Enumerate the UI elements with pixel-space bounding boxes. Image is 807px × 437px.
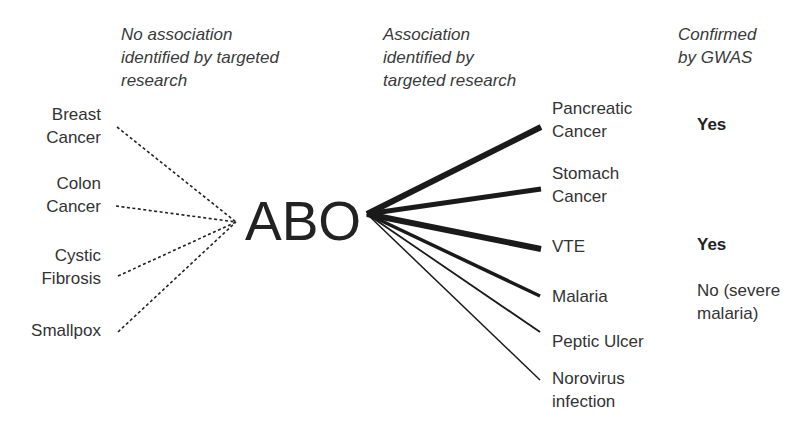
header-line: targeted research	[383, 69, 516, 92]
no-association-item-cystic-fibrosis: Cystic Fibrosis	[41, 244, 101, 290]
item-label-line: Peptic Ulcer	[552, 330, 644, 353]
gwas-status-line: malaria)	[697, 302, 780, 325]
header-line: identified by targeted	[121, 46, 279, 69]
header-line: research	[121, 69, 279, 92]
center-node-abo: ABO	[245, 194, 361, 249]
item-label-line: Breast	[46, 103, 101, 126]
header-association: Association identified by targeted resea…	[383, 23, 516, 92]
item-label-line: Smallpox	[31, 319, 101, 342]
item-label-line: Cancer	[552, 185, 619, 208]
no-association-item-colon-cancer: Colon Cancer	[46, 172, 101, 218]
edge-cystic-fibrosis	[118, 222, 236, 276]
edge-norovirus	[367, 214, 540, 380]
header-line: by GWAS	[678, 46, 756, 69]
gwas-status-malaria: No (severe malaria)	[697, 279, 780, 325]
association-item-malaria: Malaria	[552, 285, 608, 308]
association-item-peptic-ulcer: Peptic Ulcer	[552, 330, 644, 353]
edge-malaria	[367, 214, 540, 296]
header-confirmed-gwas: Confirmed by GWAS	[678, 23, 756, 69]
item-label-line: infection	[552, 390, 625, 413]
association-item-stomach-cancer: Stomach Cancer	[552, 162, 619, 208]
item-label-line: Cancer	[46, 195, 101, 218]
item-label-line: Colon	[46, 172, 101, 195]
gwas-status-line: No (severe	[697, 279, 780, 302]
gwas-status-vte: Yes	[697, 233, 726, 256]
header-line: Confirmed	[678, 23, 756, 46]
header-line: Association	[383, 23, 516, 46]
item-label-line: Cancer	[46, 126, 101, 149]
header-line: identified by	[383, 46, 516, 69]
edge-colon-cancer	[116, 206, 236, 222]
item-label-line: Stomach	[552, 162, 619, 185]
item-label-line: VTE	[552, 235, 585, 258]
association-item-pancreatic-cancer: Pancreatic Cancer	[552, 97, 632, 143]
item-label-line: Malaria	[552, 285, 608, 308]
association-item-norovirus-infection: Norovirus infection	[552, 367, 625, 413]
item-label-line: Cancer	[552, 120, 632, 143]
header-no-association: No association identified by targeted re…	[121, 23, 279, 92]
item-label-line: Norovirus	[552, 367, 625, 390]
header-line: No association	[121, 23, 279, 46]
edge-smallpox	[118, 222, 236, 332]
no-association-item-breast-cancer: Breast Cancer	[46, 103, 101, 149]
no-association-item-smallpox: Smallpox	[31, 319, 101, 342]
item-label-line: Cystic	[41, 244, 101, 267]
association-item-vte: VTE	[552, 235, 585, 258]
item-label-line: Pancreatic	[552, 97, 632, 120]
item-label-line: Fibrosis	[41, 267, 101, 290]
gwas-status-pancreatic-cancer: Yes	[697, 113, 726, 136]
